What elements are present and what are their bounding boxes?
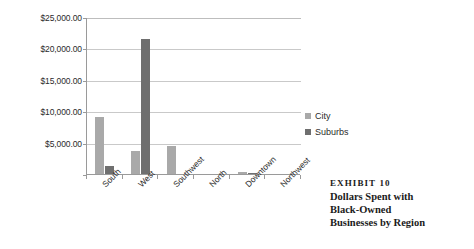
bar-group <box>87 18 123 174</box>
legend-label: Suburbs <box>315 128 349 137</box>
bar <box>131 151 140 174</box>
bar-group <box>123 18 159 174</box>
y-axis-tick-label: $10,000.00 <box>6 107 82 117</box>
bar-chart-figure: $5,000.00$10,000.00$15,000.00$20,000.00$… <box>0 0 474 249</box>
legend-item: Suburbs <box>305 124 385 140</box>
x-axis-tick <box>122 175 123 179</box>
bar-group <box>194 18 230 174</box>
y-axis-tick-label: $15,000.00 <box>6 76 82 86</box>
legend-swatch <box>305 129 311 135</box>
x-axis-tick <box>86 175 87 179</box>
legend-item: City <box>305 108 385 124</box>
x-axis-tick <box>300 175 301 179</box>
caption-exhibit-number: EXHIBIT 10 <box>330 178 470 188</box>
caption-line: Businesses by Region <box>330 216 470 229</box>
bar-group <box>230 18 266 174</box>
x-axis-tick <box>264 175 265 179</box>
y-axis-tick-label: $25,000.00 <box>6 13 82 23</box>
legend-label: City <box>315 112 331 121</box>
x-axis-tick <box>157 175 158 179</box>
legend-swatch <box>305 113 311 119</box>
figure-caption: EXHIBIT 10 Dollars Spent withBlack-Owned… <box>330 178 470 229</box>
bar <box>238 172 247 174</box>
bar-group <box>158 18 194 174</box>
bar <box>95 117 104 174</box>
caption-line: Black-Owned <box>330 203 470 216</box>
plot-area <box>86 18 300 175</box>
x-axis-tick <box>193 175 194 179</box>
caption-line: Dollars Spent with <box>330 190 470 203</box>
bar <box>167 146 176 174</box>
bar <box>141 39 150 174</box>
caption-body: Dollars Spent withBlack-OwnedBusinesses … <box>330 190 470 229</box>
chart-legend: CitySuburbs <box>305 108 385 140</box>
y-axis-tick-label: $5,000.00 <box>6 139 82 149</box>
bar-group <box>265 18 301 174</box>
x-axis-tick <box>229 175 230 179</box>
y-axis-tick-label: $20,000.00 <box>6 44 82 54</box>
